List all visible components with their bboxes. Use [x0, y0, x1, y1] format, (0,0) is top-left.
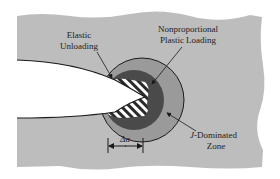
crack-growth-diagram: Elastic Unloading Nonproportional Plasti… [0, 0, 280, 179]
label-j-dominated-line1: J-Dominated [190, 130, 237, 140]
label-delta-a: Δa [119, 134, 130, 144]
label-nonproportional-line2: Plastic Loading [160, 35, 217, 45]
label-elastic-line2: Unloading [60, 41, 98, 51]
label-j-dominated-line2: Zone [207, 141, 226, 151]
label-elastic-line1: Elastic [67, 30, 92, 40]
label-nonproportional-line1: Nonproportional [158, 24, 218, 34]
label-j-rest: -Dominated [194, 130, 237, 140]
